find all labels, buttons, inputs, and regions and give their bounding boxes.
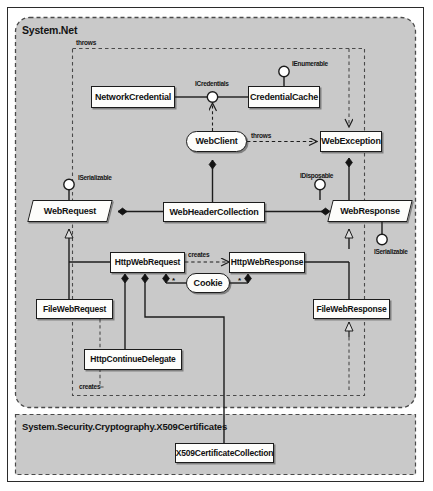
class-web-client[interactable]: WebClient	[186, 131, 247, 152]
class-file-web-request[interactable]: FileWebRequest	[36, 299, 113, 319]
interface-label-iserializable-response: ISerializable	[374, 248, 408, 255]
class-diagram-canvas: System.Net System.Security.Cryptography.…	[0, 0, 433, 491]
package-label-system-net: System.Net	[22, 24, 77, 36]
class-cookie[interactable]: Cookie	[186, 273, 230, 293]
class-http-web-request[interactable]: HttpWebRequest	[110, 252, 185, 273]
class-web-header-collection[interactable]: WebHeaderCollection	[163, 202, 265, 222]
lollipop-icredentials	[207, 92, 217, 102]
class-credential-cache[interactable]: CredentialCache	[248, 86, 320, 108]
class-http-continue-delegate[interactable]: HttpContinueDelegate	[84, 349, 182, 370]
class-x509-certificate-collection[interactable]: X509CertificateCollection	[175, 443, 274, 463]
class-web-exception[interactable]: WebException	[320, 131, 382, 152]
class-network-credential[interactable]: NetworkCredential	[91, 86, 175, 108]
edge-label-throws-webclient: throws	[251, 132, 271, 139]
multiplicity-cookie-right: *	[238, 276, 241, 285]
package-label-x509: System.Security.Cryptography.X509Certifi…	[22, 421, 227, 432]
interface-label-idisposable: IDisposable	[300, 172, 333, 179]
edge-label-throws-top: throws	[76, 39, 96, 46]
interface-label-iserializable-request: ISerializable	[78, 174, 112, 181]
multiplicity-cookie-left: *	[172, 276, 175, 285]
web-response-label: WebResponse	[340, 207, 400, 216]
class-web-response[interactable]: WebResponse	[330, 200, 410, 222]
edge-label-creates-file: creates	[79, 383, 100, 390]
class-http-web-response[interactable]: HttpWebResponse	[229, 252, 305, 273]
class-web-request[interactable]: WebRequest	[30, 200, 110, 222]
diagram-vector-layer	[0, 0, 433, 491]
edge-label-creates-http: creates	[188, 251, 209, 258]
lollipop-iserializable-response	[377, 234, 387, 244]
interface-label-ienumerable: IEnumerable	[292, 60, 328, 67]
interface-label-icredentials: ICredentials	[195, 80, 229, 87]
lollipop-iserializable-request	[64, 179, 74, 189]
lollipop-ienumerable	[279, 66, 289, 76]
lollipop-idisposable	[315, 179, 325, 189]
class-file-web-response[interactable]: FileWebResponse	[313, 299, 390, 319]
web-request-label: WebRequest	[44, 207, 96, 216]
